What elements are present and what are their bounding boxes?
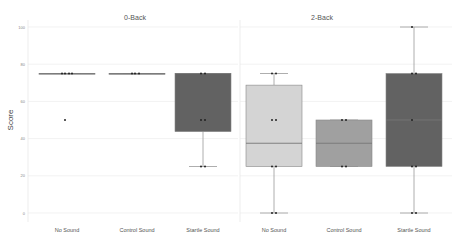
- data-point: [275, 166, 277, 168]
- data-point: [345, 166, 347, 168]
- y-tick-label: 80: [21, 62, 26, 67]
- data-point: [134, 73, 136, 75]
- data-point: [204, 119, 206, 121]
- data-point: [200, 166, 202, 168]
- x-tick-label: Startle Sound: [186, 227, 219, 233]
- box: [246, 85, 302, 166]
- data-point: [61, 73, 63, 75]
- data-point: [411, 166, 413, 168]
- data-point: [411, 119, 413, 121]
- x-tick-label: Control Sound: [326, 227, 361, 233]
- data-point: [138, 73, 140, 75]
- data-point: [345, 119, 347, 121]
- data-point: [341, 166, 343, 168]
- data-point: [271, 119, 273, 121]
- data-point: [411, 73, 413, 75]
- data-point: [271, 73, 273, 75]
- data-point: [411, 26, 413, 28]
- x-tick-label: Startle Sound: [397, 227, 430, 233]
- data-point: [68, 73, 70, 75]
- x-tick-label: No Sound: [55, 227, 79, 233]
- box-plot-chart: Score0204060801000-BackNo SoundControl S…: [0, 0, 456, 241]
- panel-title: 2-Back: [311, 14, 333, 21]
- data-point: [271, 212, 273, 214]
- data-point: [415, 166, 417, 168]
- y-tick-label: 0: [23, 211, 26, 216]
- data-point: [275, 73, 277, 75]
- data-point: [200, 73, 202, 75]
- x-tick-label: No Sound: [262, 227, 286, 233]
- box: [175, 74, 231, 132]
- data-point: [341, 119, 343, 121]
- panel-title: 0-Back: [124, 14, 146, 21]
- data-point: [271, 166, 273, 168]
- data-point: [204, 166, 206, 168]
- data-point: [415, 212, 417, 214]
- data-point: [64, 119, 66, 121]
- data-point: [415, 73, 417, 75]
- data-point: [200, 119, 202, 121]
- x-tick-label: Control Sound: [119, 227, 154, 233]
- data-point: [64, 73, 66, 75]
- data-point: [204, 73, 206, 75]
- y-tick-label: 40: [21, 136, 26, 141]
- data-point: [131, 73, 133, 75]
- y-tick-label: 100: [18, 25, 25, 30]
- data-point: [71, 73, 73, 75]
- data-point: [411, 212, 413, 214]
- data-point: [275, 119, 277, 121]
- y-tick-label: 60: [21, 99, 26, 104]
- y-axis-label: Score: [6, 109, 15, 130]
- y-tick-label: 20: [21, 173, 26, 178]
- data-point: [275, 212, 277, 214]
